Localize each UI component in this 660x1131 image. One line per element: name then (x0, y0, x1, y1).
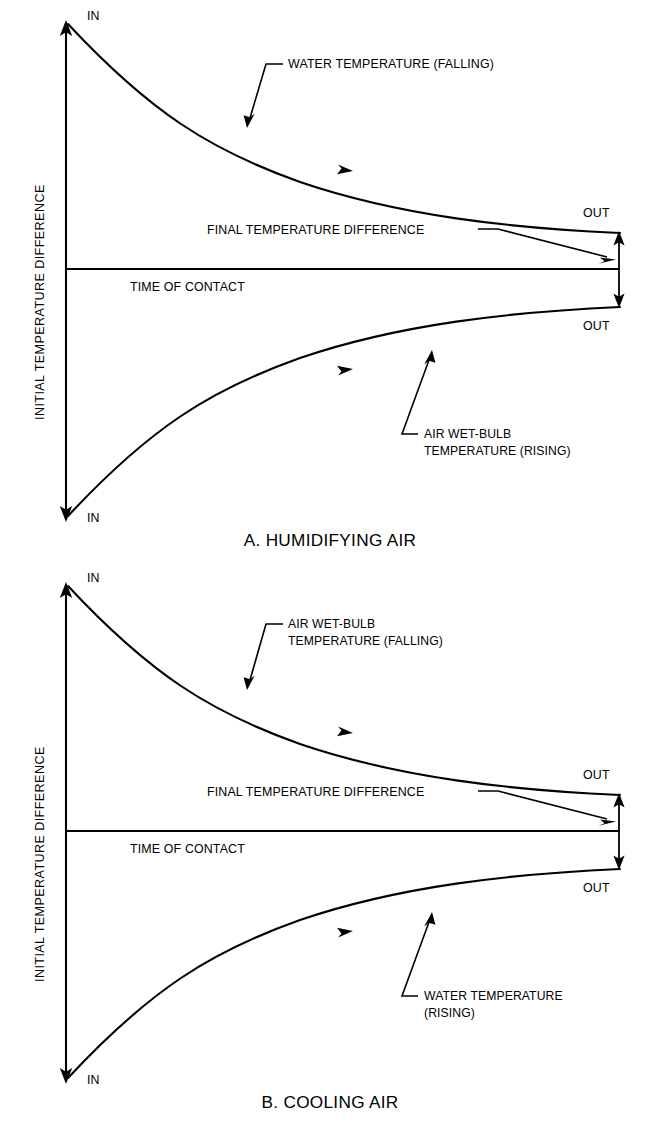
figure-page: INITIAL TEMPERATURE DIFFERENCE IN IN OUT… (0, 0, 660, 1131)
final-difference-leader-b (478, 791, 616, 826)
lower-curve-label-line1-b: WATER TEMPERATURE (424, 989, 563, 1003)
lower-curve-b (68, 869, 620, 1078)
label-in-lower-a: IN (87, 511, 100, 525)
lower-curve-callout-leader-a (402, 350, 435, 434)
upper-curve-direction-arrow-a (337, 165, 353, 175)
lower-curve-a (68, 307, 620, 516)
label-in-upper-a: IN (87, 9, 100, 23)
label-out-lower-b: OUT (583, 881, 610, 895)
baseline-label-a: TIME OF CONTACT (130, 280, 245, 294)
label-in-upper-b: IN (87, 571, 100, 585)
lower-curve-label-line2-a: TEMPERATURE (RISING) (424, 444, 571, 458)
final-difference-label-b: FINAL TEMPERATURE DIFFERENCE (207, 785, 424, 799)
diagram-panel-a: INITIAL TEMPERATURE DIFFERENCE IN IN OUT… (0, 0, 660, 566)
lower-curve-callout-leader-b (402, 912, 435, 996)
final-difference-label-a: FINAL TEMPERATURE DIFFERENCE (207, 223, 424, 237)
diagram-panel-b: INITIAL TEMPERATURE DIFFERENCE IN IN OUT… (0, 562, 660, 1128)
vertical-axis-a (60, 20, 72, 522)
axis-title-a: INITIAL TEMPERATURE DIFFERENCE (33, 184, 47, 420)
baseline-label-b: TIME OF CONTACT (130, 842, 245, 856)
upper-curve-callout-leader-b (244, 624, 283, 690)
label-in-lower-b: IN (87, 1073, 100, 1087)
label-out-lower-a: OUT (583, 319, 610, 333)
panel-caption-b: B. COOLING AIR (262, 1092, 399, 1112)
panel-caption-a: A. HUMIDIFYING AIR (244, 530, 417, 550)
upper-curve-direction-arrow-b (337, 727, 353, 737)
vertical-axis-b (60, 582, 72, 1084)
upper-curve-callout-leader-a (244, 64, 283, 128)
lower-curve-label-line2-b: (RISING) (424, 1006, 475, 1020)
label-out-upper-a: OUT (583, 206, 610, 220)
lower-curve-direction-arrow-b (337, 928, 353, 938)
upper-curve-label-line1-b: AIR WET-BULB (288, 617, 375, 631)
lower-curve-label-line1-a: AIR WET-BULB (424, 427, 511, 441)
axis-title-b: INITIAL TEMPERATURE DIFFERENCE (33, 746, 47, 982)
label-out-upper-b: OUT (583, 768, 610, 782)
upper-curve-label-a: WATER TEMPERATURE (FALLING) (288, 57, 494, 71)
final-difference-leader-a (478, 229, 616, 264)
upper-curve-a (68, 24, 620, 233)
upper-curve-label-line2-b: TEMPERATURE (FALLING) (288, 634, 443, 648)
lower-curve-direction-arrow-a (337, 366, 353, 376)
